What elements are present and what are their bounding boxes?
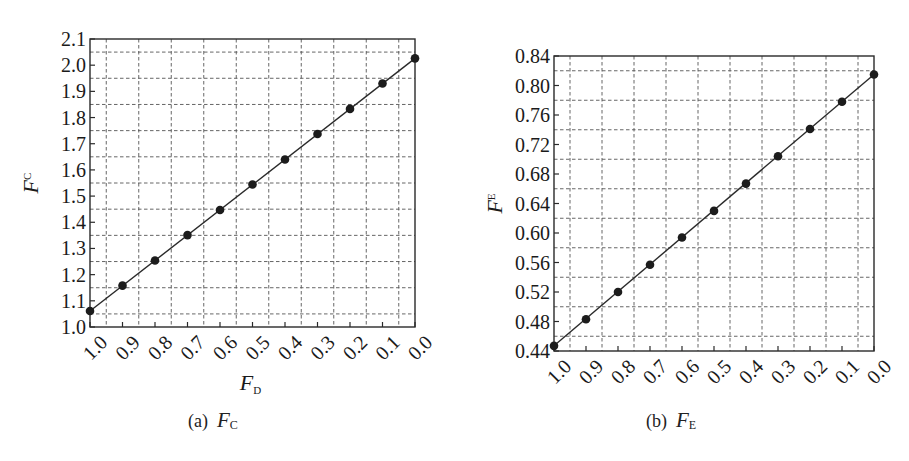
x-tick-label: 0.9 bbox=[574, 355, 607, 388]
x-tick-label: 0.6 bbox=[208, 331, 241, 364]
y-tick-label: 0.68 bbox=[515, 163, 550, 185]
y-tick-label: 0.84 bbox=[515, 45, 550, 67]
y-tick-label: 1.9 bbox=[61, 80, 86, 102]
x-tick-label: 0.1 bbox=[371, 331, 404, 364]
y-tick-label: 1.3 bbox=[61, 237, 86, 259]
y-tick-label: 1.1 bbox=[61, 290, 86, 312]
y-tick-label: 1.2 bbox=[61, 264, 86, 286]
caption-a-sub: C bbox=[230, 418, 238, 432]
data-point bbox=[774, 152, 783, 161]
x-tick-label: 0.1 bbox=[830, 355, 863, 388]
y-tick-label: 1.6 bbox=[61, 159, 86, 181]
data-series bbox=[86, 54, 420, 315]
y-tick-label: 0.80 bbox=[515, 75, 550, 97]
data-point bbox=[742, 179, 751, 188]
y-tick-label: 0.64 bbox=[515, 193, 550, 215]
y-axis-title: FE bbox=[482, 193, 507, 214]
x-tick-label: 0.8 bbox=[143, 331, 176, 364]
caption-a-prefix: (a) bbox=[188, 411, 208, 431]
x-tick-label: 0.5 bbox=[702, 355, 735, 388]
y-tick-label: 1.7 bbox=[61, 133, 86, 155]
x-tick-label: 0.7 bbox=[638, 355, 671, 388]
y-tick-label: 1.8 bbox=[61, 107, 86, 129]
y-tick-label: 0.76 bbox=[515, 104, 550, 126]
x-tick-label: 0.5 bbox=[241, 331, 274, 364]
gridlines bbox=[554, 56, 874, 351]
data-point bbox=[183, 231, 192, 240]
y-tick-label: 2.1 bbox=[61, 28, 86, 50]
data-point bbox=[118, 281, 127, 290]
data-point bbox=[614, 288, 623, 297]
data-point bbox=[838, 97, 847, 106]
caption-b-sub: E bbox=[689, 418, 696, 432]
caption-a-var: F bbox=[217, 408, 230, 432]
x-tick-label: 0.4 bbox=[273, 331, 306, 364]
data-point bbox=[248, 180, 257, 189]
chart-fe-vs-fd: 0.440.480.520.560.600.640.680.720.760.80… bbox=[455, 0, 909, 461]
y-tick-label: 2.0 bbox=[61, 54, 86, 76]
caption-b-prefix: (b) bbox=[646, 411, 667, 431]
y-tick-labels: 0.440.480.520.560.600.640.680.720.760.80… bbox=[515, 45, 550, 362]
y-tick-label: 1.4 bbox=[61, 211, 86, 233]
y-tick-label: 0.60 bbox=[515, 222, 550, 244]
y-tick-label: 0.44 bbox=[515, 340, 550, 362]
x-tick-labels: 1.00.90.80.70.60.50.40.30.20.10.0 bbox=[542, 355, 895, 388]
data-point bbox=[346, 105, 355, 114]
x-tick-label: 0.6 bbox=[670, 355, 703, 388]
data-point bbox=[378, 79, 387, 88]
data-point bbox=[806, 125, 815, 134]
y-tick-label: 0.52 bbox=[515, 281, 550, 303]
data-point bbox=[678, 233, 687, 242]
x-tick-label: 0.7 bbox=[176, 331, 209, 364]
y-tick-label: 0.56 bbox=[515, 252, 550, 274]
data-point bbox=[216, 206, 225, 215]
x-tick-label: 0.0 bbox=[403, 331, 436, 364]
data-point bbox=[550, 342, 559, 351]
x-tick-label: 0.2 bbox=[798, 355, 831, 388]
data-point bbox=[151, 256, 160, 265]
caption-b-var: F bbox=[676, 408, 689, 432]
x-tick-labels: 1.00.90.80.70.60.50.40.30.20.10.0 bbox=[78, 331, 436, 364]
caption-a: (a) FC bbox=[188, 408, 238, 433]
chart-panel-b: 0.440.480.520.560.600.640.680.720.760.80… bbox=[455, 0, 909, 461]
caption-b: (b) FE bbox=[646, 408, 696, 433]
x-tick-label: 0.3 bbox=[306, 331, 339, 364]
y-tick-labels: 1.01.11.21.31.41.51.61.71.81.92.02.1 bbox=[61, 28, 86, 338]
x-tick-label: 0.8 bbox=[606, 355, 639, 388]
data-point bbox=[582, 315, 591, 324]
data-series bbox=[550, 70, 879, 350]
x-tick-label: 0.2 bbox=[338, 331, 371, 364]
y-tick-label: 1.5 bbox=[61, 185, 86, 207]
y-tick-label: 1.0 bbox=[61, 316, 86, 338]
data-point bbox=[710, 207, 719, 216]
data-point bbox=[646, 260, 655, 269]
chart-panel-a: 1.01.11.21.31.41.51.61.71.81.92.02.11.00… bbox=[0, 0, 455, 461]
x-tick-label: 0.0 bbox=[862, 355, 895, 388]
y-tick-label: 0.72 bbox=[515, 134, 550, 156]
data-point bbox=[313, 130, 322, 139]
chart-fc-vs-fd: 1.01.11.21.31.41.51.61.71.81.92.02.11.00… bbox=[0, 0, 455, 461]
x-axis-title: FD bbox=[239, 370, 261, 396]
x-tick-label: 0.3 bbox=[766, 355, 799, 388]
data-point bbox=[870, 70, 879, 79]
data-point bbox=[411, 54, 420, 63]
data-point bbox=[281, 155, 290, 164]
data-point bbox=[86, 307, 95, 316]
y-axis-title: FC bbox=[18, 173, 43, 195]
y-tick-label: 0.48 bbox=[515, 311, 550, 333]
x-tick-label: 0.9 bbox=[111, 331, 144, 364]
x-tick-label: 0.4 bbox=[734, 355, 767, 388]
